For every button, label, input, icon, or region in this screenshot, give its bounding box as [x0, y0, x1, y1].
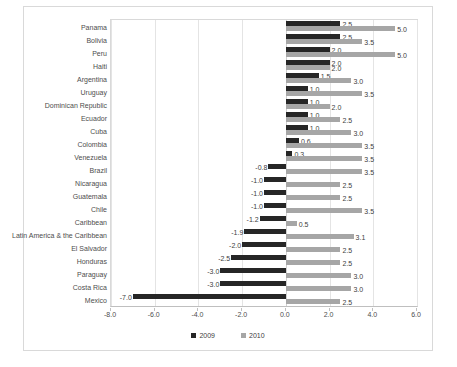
- value-label-2009: -1.0: [251, 176, 263, 183]
- bar-2010: [286, 208, 363, 213]
- chart-row: Brazil-0.83.5: [111, 163, 417, 176]
- category-label: Venezuela: [74, 153, 107, 160]
- chart-row: Ecuador1.02.5: [111, 111, 417, 124]
- bar-2010: [286, 221, 297, 226]
- category-label: Latin America & the Caribbean: [12, 231, 107, 238]
- x-tick-label: -4.0: [191, 311, 203, 318]
- chart-row: Honduras-2.52.5: [111, 254, 417, 267]
- bar-2009: [268, 164, 285, 169]
- value-label-2010: 2.5: [343, 181, 353, 188]
- bar-2010: [286, 247, 341, 252]
- chart-row: Chile-1.03.5: [111, 202, 417, 215]
- bar-2010: [286, 234, 354, 239]
- chart-row: Haiti2.02.0: [111, 59, 417, 72]
- bar-2010: [286, 169, 363, 174]
- bar-2010: [286, 273, 352, 278]
- bar-2010: [286, 65, 330, 70]
- chart-row: Costa Rica-3.03.0: [111, 280, 417, 293]
- category-label: Mexico: [85, 296, 107, 303]
- category-label: Bolivia: [86, 36, 107, 43]
- bar-2010: [286, 182, 341, 187]
- chart-row: Dominican Republic1.02.0: [111, 98, 417, 111]
- value-label-2009: -1.0: [251, 189, 263, 196]
- category-label: Brazil: [89, 166, 107, 173]
- bar-2010: [286, 78, 352, 83]
- bar-2009: [244, 229, 286, 234]
- value-label-2010: 3.1: [356, 233, 366, 240]
- x-tick-label: 4.0: [367, 311, 377, 318]
- category-label: Haiti: [93, 62, 107, 69]
- value-label-2010: 2.5: [343, 194, 353, 201]
- bar-2010: [286, 143, 363, 148]
- chart-row: Panama2.55.0: [111, 20, 417, 33]
- category-label: Colombia: [77, 140, 107, 147]
- bar-2009: [220, 281, 286, 286]
- value-label-2009: -0.8: [255, 163, 267, 170]
- bar-2009: [220, 268, 286, 273]
- chart-row: Uruguay1.03.5: [111, 85, 417, 98]
- value-label-2009: -3.0: [207, 280, 219, 287]
- category-label: Honduras: [77, 257, 107, 264]
- value-label-2010: 3.5: [364, 155, 374, 162]
- chart-row: Paraguay-3.03.0: [111, 267, 417, 280]
- chart-row: Latin America & the Caribbean-1.93.1: [111, 228, 417, 241]
- bar-2009: [260, 216, 286, 221]
- bar-2010: [286, 91, 363, 96]
- legend-swatch-icon: [191, 333, 196, 338]
- bar-2010: [286, 195, 341, 200]
- value-label-2009: -1.9: [231, 228, 243, 235]
- bar-2010: [286, 260, 341, 265]
- category-label: Costa Rica: [73, 283, 107, 290]
- bar-2010: [286, 299, 341, 304]
- value-label-2010: 3.5: [364, 90, 374, 97]
- value-label-2010: 3.0: [353, 272, 363, 279]
- x-tick-label: 2.0: [324, 311, 334, 318]
- bar-2009: [231, 255, 286, 260]
- bar-2010: [286, 156, 363, 161]
- value-label-2010: 3.0: [353, 129, 363, 136]
- x-tick-label: 6.0: [411, 311, 421, 318]
- x-tick-label: -2.0: [235, 311, 247, 318]
- value-label-2010: 2.0: [332, 103, 342, 110]
- chart-row: Cuba1.03.0: [111, 124, 417, 137]
- bar-2010: [286, 286, 352, 291]
- value-label-2010: 2.5: [343, 246, 353, 253]
- bar-2010: [286, 104, 330, 109]
- value-label-2010: 2.5: [343, 116, 353, 123]
- value-label-2010: 3.5: [364, 142, 374, 149]
- category-label: Ecuador: [81, 114, 107, 121]
- chart-legend: 20092010: [24, 332, 432, 339]
- category-label: Caribbean: [75, 218, 107, 225]
- bar-2009: [264, 190, 286, 195]
- category-label: Argentina: [77, 75, 107, 82]
- value-label-2009: -2.0: [229, 241, 241, 248]
- value-label-2010: 0.5: [299, 220, 309, 227]
- x-tick-label: -6.0: [148, 311, 160, 318]
- chart-row: Argentina1.53.0: [111, 72, 417, 85]
- value-label-2010: 3.5: [364, 207, 374, 214]
- category-label: Chile: [91, 205, 107, 212]
- chart-row: Nicaragua-1.02.5: [111, 176, 417, 189]
- value-label-2009: -7.0: [120, 293, 132, 300]
- bar-2010: [286, 117, 341, 122]
- x-axis: -8.0-6.0-4.0-2.00.02.04.06.0: [110, 308, 418, 322]
- chart-row: Colombia0.63.5: [111, 137, 417, 150]
- bar-2010: [286, 26, 395, 31]
- x-tick-label: 0.0: [280, 311, 290, 318]
- chart-row: El Salvador-2.02.5: [111, 241, 417, 254]
- legend-item-2009[interactable]: 2009: [191, 332, 215, 339]
- bar-2010: [286, 39, 363, 44]
- bar-2009: [264, 203, 286, 208]
- category-label: Guatemala: [73, 192, 107, 199]
- category-label: Panama: [81, 23, 107, 30]
- chart-row: Caribbean-1.20.5: [111, 215, 417, 228]
- category-label: Paraguay: [77, 270, 107, 277]
- chart-row: Venezuela0.33.5: [111, 150, 417, 163]
- chart-row: Peru2.05.0: [111, 46, 417, 59]
- bar-2009: [242, 242, 286, 247]
- bar-2010: [286, 52, 395, 57]
- category-label: Nicaragua: [75, 179, 107, 186]
- legend-item-2010[interactable]: 2010: [241, 332, 265, 339]
- category-label: Dominican Republic: [45, 101, 107, 108]
- value-label-2010: 5.0: [397, 51, 407, 58]
